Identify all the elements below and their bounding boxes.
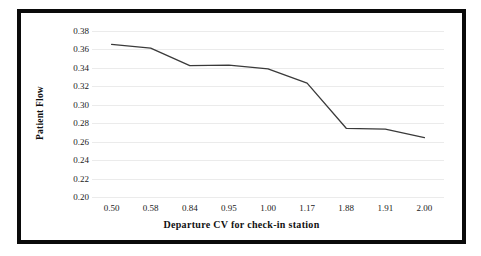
x-tick-label: 0.58 (131, 203, 171, 213)
x-tick-label: 0.84 (170, 203, 210, 213)
x-tick-label: 1.17 (287, 203, 327, 213)
plot-region (92, 31, 444, 197)
series-line-patient-flow (92, 31, 444, 197)
y-tick-label: 0.36 (59, 44, 89, 54)
y-tick-label: 0.28 (59, 118, 89, 128)
x-tick-label: 1.88 (326, 203, 366, 213)
y-tick-label: 0.22 (59, 174, 89, 184)
gridline (92, 197, 444, 198)
y-axis-tick-labels: 0.380.360.340.320.300.280.260.240.220.20 (59, 31, 89, 197)
y-tick-label: 0.20 (59, 192, 89, 202)
x-axis-title: Departure CV for check-in station (21, 219, 462, 230)
y-tick-label: 0.32 (59, 81, 89, 91)
y-axis-title: Patient Flow (35, 68, 45, 158)
x-tick-label: 0.95 (209, 203, 249, 213)
x-tick-label: 1.00 (248, 203, 288, 213)
x-axis-tick-labels: 0.500.580.840.951.001.171.881.912.00 (92, 203, 444, 217)
series-polyline (112, 44, 425, 137)
chart-figure-frame: Patient Flow 0.380.360.340.320.300.280.2… (17, 9, 466, 244)
y-tick-label: 0.26 (59, 137, 89, 147)
x-tick-label: 0.50 (92, 203, 132, 213)
y-tick-label: 0.38 (59, 26, 89, 36)
y-tick-label: 0.30 (59, 100, 89, 110)
y-tick-label: 0.24 (59, 155, 89, 165)
x-tick-label: 1.91 (365, 203, 405, 213)
line-chart: Patient Flow 0.380.360.340.320.300.280.2… (21, 13, 462, 240)
x-tick-label: 2.00 (404, 203, 444, 213)
y-tick-label: 0.34 (59, 63, 89, 73)
